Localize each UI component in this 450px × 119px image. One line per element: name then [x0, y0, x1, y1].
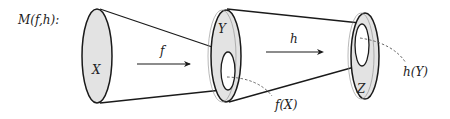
image-hy-region — [355, 24, 369, 66]
cone-h — [227, 9, 360, 102]
set-x-label: X — [91, 63, 101, 77]
image-fx-label: f(X) — [274, 98, 298, 112]
map-f-label: f — [159, 44, 167, 58]
arrow-h: h — [266, 32, 324, 55]
image-hy-label: h(Y) — [403, 65, 428, 79]
arrow-f: f — [137, 44, 191, 67]
set-y-label: Y — [218, 22, 227, 36]
set-z-label: Z — [356, 82, 366, 96]
diagram-title: M(f,h): — [17, 13, 59, 27]
set-x: X — [82, 9, 112, 103]
mapping-cone-diagram: M(f,h): X Y Z f h — [0, 0, 450, 119]
image-fx-region — [221, 52, 235, 90]
map-h-label: h — [290, 32, 298, 46]
